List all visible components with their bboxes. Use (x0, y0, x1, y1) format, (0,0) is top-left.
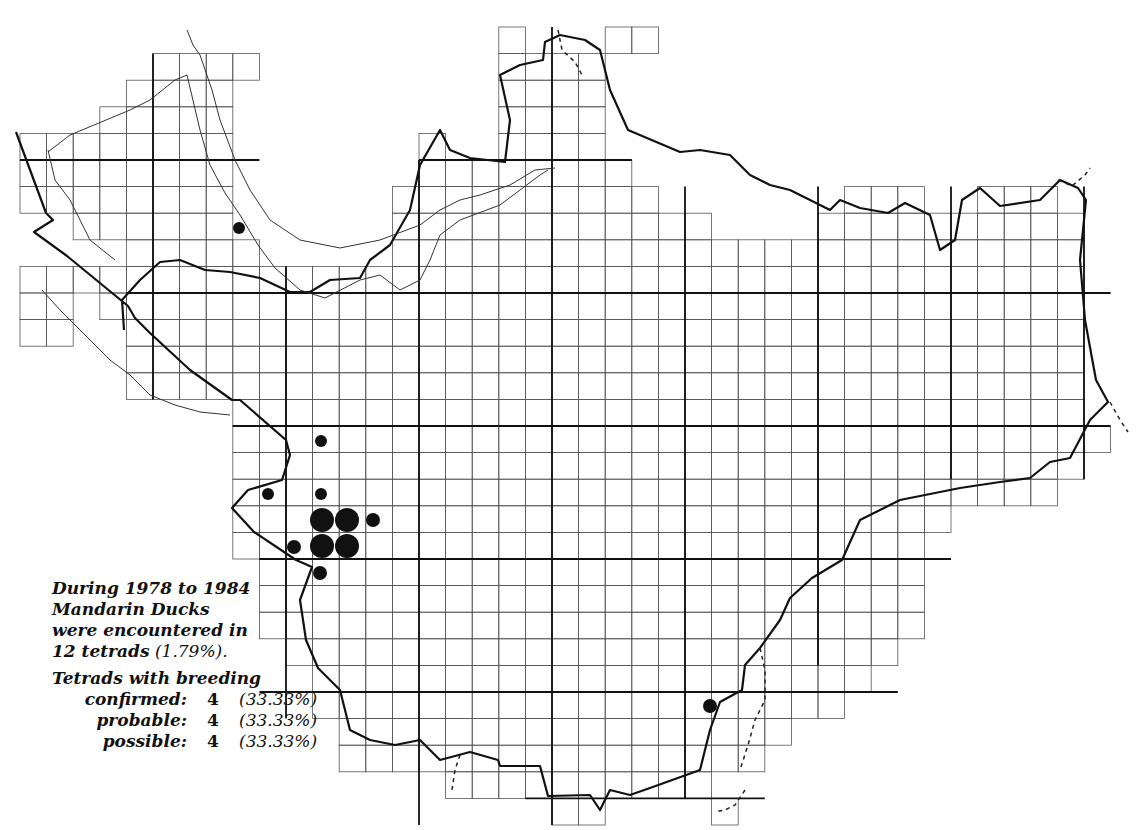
row-count: 4 (187, 689, 239, 710)
legend-line-encountered: were encountered in (52, 620, 317, 641)
record-dot-possible (315, 435, 327, 447)
legend-row-confirmed: confirmed: 4 (33.33%) (52, 689, 317, 710)
record-dot-confirmed (310, 508, 334, 532)
distribution-map-figure: During 1978 to 1984 Mandarin Ducks were … (0, 0, 1143, 830)
row-percent: (33.33%) (239, 710, 317, 731)
rivers (42, 30, 555, 415)
row-percent: (33.33%) (239, 731, 317, 752)
record-dot-possible (262, 488, 274, 500)
legend-row-possible: possible: 4 (33.33%) (52, 731, 317, 752)
record-dot-probable (366, 513, 380, 527)
national-border-dashed (452, 30, 1128, 812)
tetrad-count: 12 tetrads (52, 641, 150, 661)
record-dot-confirmed (335, 508, 359, 532)
row-label: confirmed: (52, 689, 187, 710)
record-dot-probable (287, 540, 301, 554)
map-legend: During 1978 to 1984 Mandarin Ducks were … (52, 578, 317, 752)
record-dot-confirmed (335, 534, 359, 558)
tetrad-percent: (1.79%). (155, 641, 228, 661)
row-label: possible: (52, 731, 187, 752)
record-dot-possible (233, 222, 245, 234)
legend-row-probable: probable: 4 (33.33%) (52, 710, 317, 731)
record-dot-probable (703, 699, 717, 713)
row-label: probable: (52, 710, 187, 731)
record-dot-confirmed (310, 534, 334, 558)
legend-line-period: During 1978 to 1984 (52, 578, 317, 599)
row-count: 4 (187, 710, 239, 731)
row-percent: (33.33%) (239, 689, 317, 710)
row-count: 4 (187, 731, 239, 752)
record-dot-possible (315, 488, 327, 500)
legend-line-tetrad-count: 12 tetrads (1.79%). (52, 641, 317, 662)
legend-breeding-heading: Tetrads with breeding (52, 668, 317, 689)
legend-line-species: Mandarin Ducks (52, 599, 317, 620)
